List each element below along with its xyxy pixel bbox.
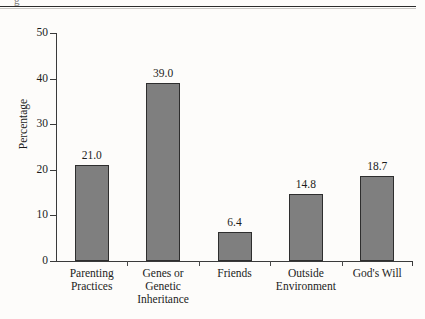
x-axis-end-tick <box>412 261 413 266</box>
x-axis-category-label: Genes orGeneticInheritance <box>127 267 198 307</box>
y-axis-tick <box>50 79 56 80</box>
x-axis-category-line: Genetic <box>127 280 198 293</box>
y-axis-tick <box>50 33 56 34</box>
x-axis-category-line: Practices <box>56 280 127 293</box>
x-axis-category-label: God's Will <box>342 267 413 280</box>
x-axis-category-line: Inheritance <box>127 293 198 306</box>
x-axis-category-line: Friends <box>199 267 270 280</box>
y-axis-tick-label: 40 <box>8 73 48 85</box>
header-rule <box>0 6 416 7</box>
y-axis-tick <box>50 261 56 262</box>
x-axis-line <box>56 261 413 262</box>
x-axis-tick <box>199 261 200 266</box>
y-axis-tick-label: 0 <box>8 255 48 267</box>
bar-value-label: 6.4 <box>205 217 265 229</box>
x-axis-category-label: OutsideEnvironment <box>270 267 341 293</box>
bar <box>75 165 109 261</box>
bar <box>360 176 394 261</box>
y-axis-tick-label: 10 <box>8 209 48 221</box>
x-axis-category-label: ParentingPractices <box>56 267 127 293</box>
bar <box>289 194 323 261</box>
x-axis-category-line: Parenting <box>56 267 127 280</box>
bar-value-label: 39.0 <box>133 68 193 80</box>
x-axis-category-line: Outside <box>270 267 341 280</box>
x-axis-tick <box>270 261 271 266</box>
x-axis-category-label: Friends <box>199 267 270 280</box>
header-rule-shadow <box>0 8 416 9</box>
bar-value-label: 18.7 <box>347 161 407 173</box>
bar-value-label: 14.8 <box>276 179 336 191</box>
y-axis-line <box>56 33 57 262</box>
bar-value-label: 21.0 <box>62 150 122 162</box>
y-axis-tick-label: 20 <box>8 164 48 176</box>
bar <box>146 83 180 261</box>
y-axis-tick-label: 50 <box>8 27 48 39</box>
y-axis-tick <box>50 170 56 171</box>
x-axis-category-line: God's Will <box>342 267 413 280</box>
y-axis-tick <box>50 124 56 125</box>
x-axis-category-line: Genes or <box>127 267 198 280</box>
figure-chart-percentage: g Percentage 01020304050 21.039.06.414.8… <box>0 0 425 319</box>
y-axis-tick <box>50 215 56 216</box>
y-axis-tick-label: 30 <box>8 118 48 130</box>
bar <box>218 232 252 261</box>
x-axis-tick <box>127 261 128 266</box>
x-axis-category-line: Environment <box>270 280 341 293</box>
x-axis-tick <box>342 261 343 266</box>
